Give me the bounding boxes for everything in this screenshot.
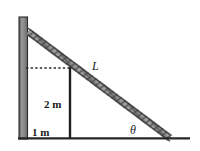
ladder-edge-top	[28, 28, 170, 135]
ladder	[28, 28, 170, 141]
ladder-length-label: L	[91, 59, 99, 73]
wall	[19, 17, 28, 139]
ladder-diagram: L 2 m 1 m θ	[0, 0, 200, 151]
ladder-body	[28, 32, 170, 139]
diagram-canvas: L 2 m 1 m θ	[0, 0, 200, 151]
angle-theta-label: θ	[130, 123, 136, 137]
base-label: 1 m	[32, 126, 49, 138]
height-label: 2 m	[44, 98, 61, 110]
